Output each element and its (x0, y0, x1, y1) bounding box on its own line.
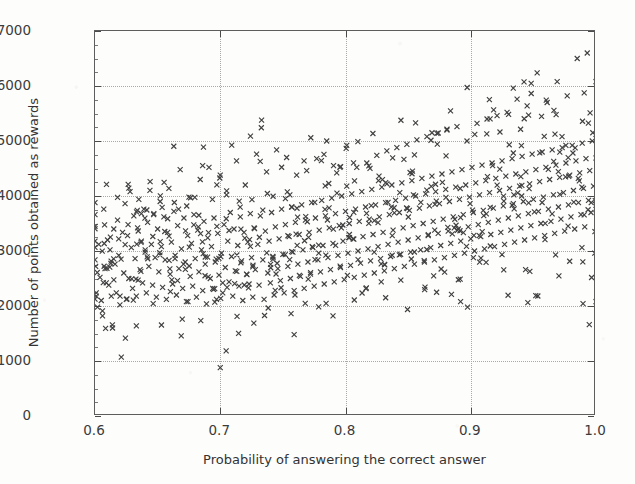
data-point (384, 148, 389, 153)
data-point (570, 151, 575, 156)
data-point (528, 223, 533, 228)
data-point (218, 365, 223, 370)
data-point (443, 187, 448, 192)
data-point (305, 219, 310, 224)
data-point (379, 279, 384, 284)
data-point (546, 167, 551, 172)
data-point (566, 224, 571, 229)
data-point (321, 152, 326, 157)
data-point (396, 240, 401, 245)
data-point (150, 234, 155, 239)
data-point (259, 125, 264, 130)
data-point (209, 244, 214, 249)
data-point (428, 138, 433, 143)
data-point (532, 209, 537, 214)
data-point (262, 297, 267, 302)
data-point (448, 108, 453, 113)
data-point (488, 116, 493, 121)
data-point (529, 81, 534, 86)
data-point (462, 251, 467, 256)
data-point (518, 127, 523, 132)
data-point (525, 300, 530, 305)
data-point (181, 262, 186, 267)
data-point (205, 235, 210, 240)
data-point (359, 189, 364, 194)
data-point (327, 225, 332, 230)
data-point (387, 212, 392, 217)
data-point (260, 208, 265, 213)
data-point (168, 289, 173, 294)
data-point (592, 251, 594, 256)
data-point (109, 294, 114, 299)
data-point (480, 229, 485, 234)
data-point (204, 301, 209, 306)
data-point (500, 158, 505, 163)
data-point (464, 139, 469, 144)
data-point (556, 169, 561, 174)
data-point (523, 169, 528, 174)
data-point (111, 256, 116, 261)
data-point (547, 177, 552, 182)
data-point (167, 266, 172, 271)
data-point (169, 277, 174, 282)
data-point (314, 156, 319, 161)
data-point (110, 322, 115, 327)
data-point (448, 241, 453, 246)
data-point (349, 191, 354, 196)
data-point (487, 97, 492, 102)
data-point (582, 212, 587, 217)
data-point (458, 215, 463, 220)
data-point (164, 297, 169, 302)
data-point (268, 262, 273, 267)
data-point (123, 242, 128, 247)
data-point (192, 195, 197, 200)
data-point (265, 271, 270, 276)
data-point (409, 256, 414, 261)
data-point (302, 158, 307, 163)
data-point (486, 220, 491, 225)
data-point (235, 314, 240, 319)
data-point (158, 193, 163, 198)
data-point (263, 229, 268, 234)
data-point (376, 244, 381, 249)
data-point (249, 255, 254, 260)
data-point (508, 228, 513, 233)
data-point (224, 216, 229, 221)
data-point (535, 70, 540, 75)
data-point (229, 143, 234, 148)
data-point (352, 298, 357, 303)
data-point (491, 107, 496, 112)
data-point (223, 265, 228, 270)
data-point (160, 285, 165, 290)
data-point (392, 266, 397, 271)
data-point (134, 294, 139, 299)
data-point (288, 276, 293, 281)
data-point (100, 313, 105, 318)
data-point (194, 295, 199, 300)
data-point (210, 197, 215, 202)
data-point (503, 174, 508, 179)
data-point (175, 223, 180, 228)
data-point (452, 253, 457, 258)
data-point (191, 212, 196, 217)
data-point (555, 79, 560, 84)
data-point (200, 163, 205, 168)
data-point (184, 204, 189, 209)
data-point (522, 79, 527, 84)
data-point (147, 188, 152, 193)
data-point (431, 219, 436, 224)
data-point (266, 306, 271, 311)
data-point (434, 290, 439, 295)
data-point (398, 278, 403, 283)
data-point (153, 255, 158, 260)
data-point (563, 161, 568, 166)
data-point (452, 217, 457, 222)
data-point (149, 242, 154, 247)
data-point (305, 260, 310, 265)
data-point (352, 178, 357, 183)
data-point (372, 250, 377, 255)
data-point (501, 199, 506, 204)
data-point (211, 216, 216, 221)
data-point (390, 233, 395, 238)
data-point (227, 279, 232, 284)
